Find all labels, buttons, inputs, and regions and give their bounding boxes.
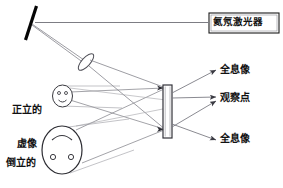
hologram-top-label: 全息像 <box>220 64 250 75</box>
virtual-image-face <box>53 85 123 108</box>
laser-label: 氦氖激光器 <box>213 17 263 28</box>
hologram-bottom-label: 全息像 <box>220 133 250 144</box>
real-image-label: 倒立的 实像 <box>6 135 36 188</box>
mirror <box>26 6 37 40</box>
real-image-label-line1: 倒立的 <box>6 157 36 168</box>
holographic-plate <box>163 85 172 138</box>
output-rays <box>172 70 216 140</box>
reflected-beam <box>32 24 88 66</box>
observation-point-label: 观察点 <box>220 92 250 103</box>
virtual-image-label-line1: 正立的 <box>12 104 42 115</box>
diagram-canvas: 氦氖激光器 正立的 虚像 倒立的 实像 全息像 观察点 全息像 <box>0 0 283 188</box>
object-beam-rays <box>70 88 168 163</box>
real-image-face <box>42 119 134 174</box>
